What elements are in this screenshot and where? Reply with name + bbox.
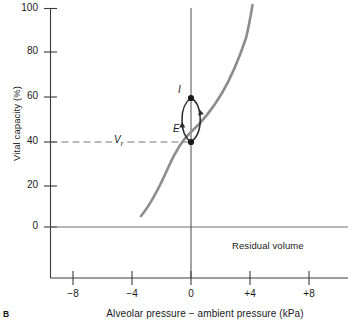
residual-volume-symbol: Vr (112, 134, 125, 147)
residual-volume-label: Residual volume (232, 240, 304, 251)
inspiration-arrowhead (197, 110, 204, 116)
x-tick-label-0: 0 (171, 288, 211, 299)
end-inspiration-point (188, 95, 194, 101)
y-tick-label-100: 100 (8, 2, 38, 13)
x-axis-title: Alveolar pressure − ambient pressure (kP… (60, 308, 350, 319)
x-tick-label-plus8: +8 (289, 288, 329, 299)
y-tick-label-0: 0 (8, 220, 38, 231)
inspiration-branch (191, 98, 200, 142)
expiration-arrowhead (179, 122, 185, 128)
pressure-volume-figure: 100 80 60 40 20 0 −8 −4 0 +4 +8 Vital ca… (0, 0, 352, 327)
vr-symbol-letter: V (114, 134, 121, 145)
chart-canvas (0, 0, 352, 327)
expiration-label: E (173, 123, 180, 134)
y-axis-title: Vital capacity (%) (11, 64, 22, 184)
vr-symbol-subscript: r (121, 140, 123, 147)
end-expiration-point (188, 139, 194, 145)
x-tick-label-plus4: +4 (230, 288, 270, 299)
x-tick-label-minus8: −8 (53, 288, 93, 299)
y-tick-label-80: 80 (8, 45, 38, 56)
inspiration-label: I (178, 84, 181, 95)
x-tick-label-minus4: −4 (112, 288, 152, 299)
compliance-curve (141, 5, 253, 216)
panel-letter: B (3, 309, 9, 319)
